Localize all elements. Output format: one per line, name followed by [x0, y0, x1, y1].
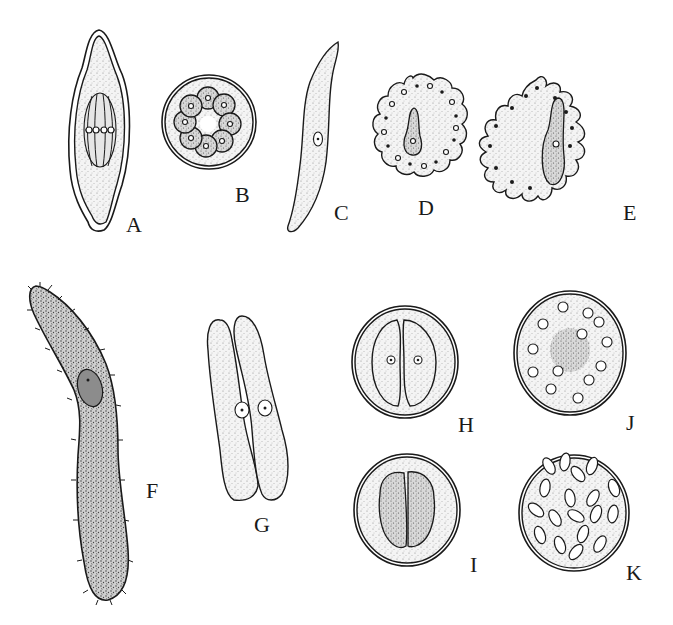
panel-h: H	[352, 306, 474, 437]
panel-b: B	[162, 75, 256, 207]
panel-label-f: F	[146, 478, 158, 503]
panel-e: E	[479, 77, 636, 225]
panel-k: K	[519, 452, 642, 585]
panel-g: G	[208, 316, 289, 537]
panel-label-h: H	[458, 412, 474, 437]
panel-a: A	[69, 30, 142, 237]
panel-label-b: B	[235, 182, 250, 207]
panel-f: F	[27, 282, 158, 605]
protozoan-life-cycle-figure: A B C	[0, 0, 673, 625]
panel-label-j: J	[626, 410, 635, 435]
panel-label-i: I	[470, 552, 477, 577]
panel-label-a: A	[126, 212, 142, 237]
panel-j: J	[514, 291, 635, 435]
panel-c: C	[288, 42, 349, 232]
panel-d: D	[373, 74, 467, 220]
panel-label-k: K	[626, 560, 642, 585]
panel-label-c: C	[334, 200, 349, 225]
panel-i: I	[354, 454, 477, 577]
panel-label-e: E	[623, 200, 636, 225]
panel-label-d: D	[418, 195, 434, 220]
panel-label-g: G	[254, 512, 270, 537]
